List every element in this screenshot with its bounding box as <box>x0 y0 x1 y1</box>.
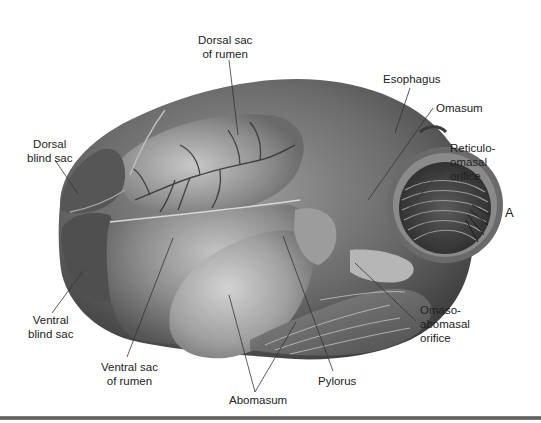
panel-letter: A <box>505 205 514 220</box>
bottom-rule <box>0 416 541 420</box>
label-ventral-sac-of-rumen: Ventral sac of rumen <box>101 360 158 388</box>
label-esophagus: Esophagus <box>383 72 441 86</box>
label-omasum: Omasum <box>436 101 483 115</box>
label-omaso-abomasal-orifice: Omaso- abomasal orifice <box>420 303 470 345</box>
label-dorsal-blind-sac: Dorsal blind sac <box>27 137 72 165</box>
label-ventral-blind-sac: Ventral blind sac <box>28 313 73 341</box>
label-dorsal-sac-of-rumen: Dorsal sac of rumen <box>198 33 252 61</box>
label-pylorus: Pylorus <box>318 374 356 388</box>
label-reticulo-omasal-orifice: Reticulo- omasal orifice <box>450 141 495 183</box>
stomach-illustration <box>0 0 541 423</box>
label-abomasum: Abomasum <box>229 393 287 407</box>
